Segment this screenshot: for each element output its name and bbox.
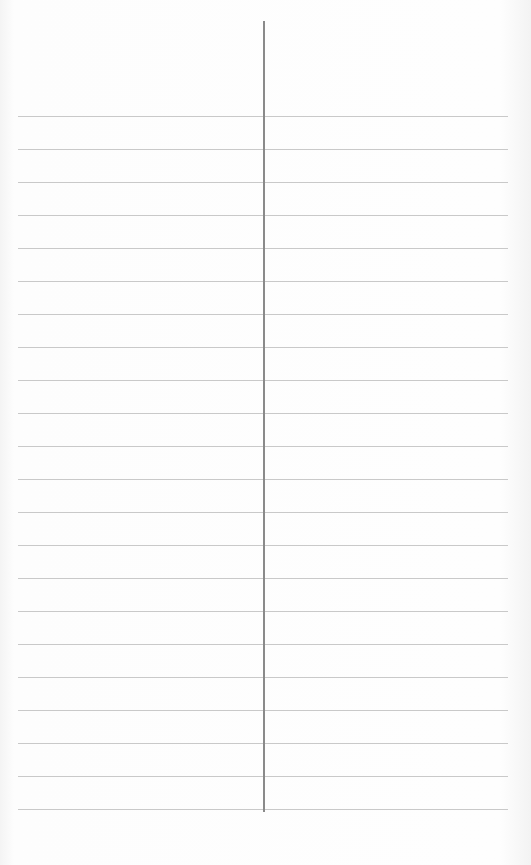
ruled-paper-sheet xyxy=(0,0,531,865)
center-divider-line xyxy=(263,21,265,812)
